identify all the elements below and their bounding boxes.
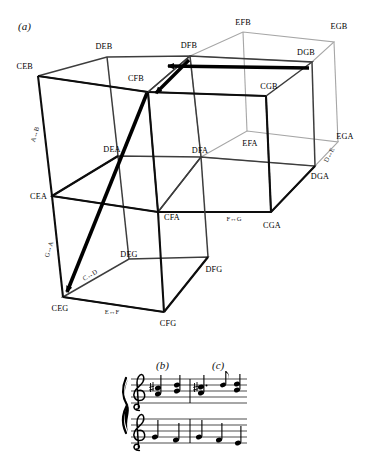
mid-cube-edge-dgb-dga (312, 62, 315, 166)
edge-label-e-f: E↔F (105, 308, 120, 315)
treble-clef-upper (134, 375, 145, 411)
cube-near (38, 56, 208, 312)
vertex-label-egb: EGB (331, 22, 348, 31)
near-cube-bold-cfb-cfa (148, 92, 158, 212)
near-cube-bold-left-vert-lower (52, 196, 63, 297)
vertex-label-efb: EFB (235, 18, 251, 27)
vertex-label-cfg: CFG (160, 319, 177, 328)
vertex-label-dgb: DGB (297, 48, 315, 57)
measure-b-lower-notes (151, 420, 179, 443)
edge-label-f-g: F↔G (226, 215, 241, 222)
vertex-label-ceb: CEB (16, 62, 33, 71)
vertex-label-cea: CEA (30, 192, 47, 201)
accidental-sharp-b1 (149, 382, 154, 392)
vertex-label-cgb: CGB (260, 82, 278, 91)
mid-cube-bold-bottom (158, 166, 315, 212)
mid-cube-bold-vert-cgb (266, 96, 271, 212)
measure-c-upper-notes (193, 371, 240, 396)
cube-middle (148, 56, 315, 212)
vertex-label-ega: EGA (336, 132, 353, 141)
edge-label-group: A↔B G↔A C↔D E↔F F↔G D↔E (29, 125, 335, 315)
edge-label-a-b: A↔B (29, 125, 40, 143)
vertex-label-dfg: DFG (206, 265, 223, 274)
lower-staff (131, 419, 247, 443)
measure-b-upper-notes (149, 375, 180, 397)
measure-c-lower-notes (195, 420, 241, 446)
vertex-label-dfa: DFA (192, 146, 208, 155)
mid-cube-mid-face (158, 157, 315, 212)
accidental-sharp-c1 (193, 382, 198, 392)
vertex-label-dga: DGA (311, 172, 329, 181)
figure-container: (a) (0, 0, 373, 473)
edge-label-c-d: C↔D (81, 268, 98, 282)
far-cube-edge-egb-ega (334, 42, 338, 142)
figure-svg: (a) (0, 0, 373, 473)
vertex-label-cfb: CFB (128, 74, 144, 83)
vertex-label-dfb: DFB (181, 41, 198, 50)
vertex-label-deb: DEB (96, 42, 113, 51)
panel-label-c: (c) (212, 359, 225, 372)
arrow-cfb-to-ceg (67, 93, 147, 292)
edge-label-g-a: G↔A (43, 240, 54, 258)
vertex-label-dea: DEA (103, 145, 120, 154)
mid-cube-bold-top-front (148, 92, 266, 96)
near-cube-bold-left-vert-upper (38, 76, 52, 196)
near-cube-mid-face (52, 156, 201, 212)
panel-label-b: (b) (156, 359, 169, 372)
vertex-label-cga: CGA (263, 221, 281, 230)
mid-cube-edge-dfb-dfa (190, 56, 201, 157)
vertex-label-ceg: CEG (52, 304, 69, 313)
edge-label-d-e: D↔E (322, 146, 335, 163)
treble-clef-lower (134, 415, 145, 451)
augmentation-dot-c1 (206, 385, 208, 387)
near-cube-edge-deb-dea (107, 57, 118, 156)
score-group (123, 371, 247, 451)
near-cube-bold-right-vert (158, 212, 164, 312)
arrow-dgb-to-dfb (168, 66, 309, 68)
far-cube-edge-efb-efa (243, 32, 247, 131)
vertex-label-cfa: CFA (164, 213, 180, 222)
cube-middle-bold (148, 92, 315, 212)
upper-staff (131, 379, 247, 403)
near-cube-edge-dfg-dfa (201, 157, 208, 257)
vertex-label-efa: EFA (242, 139, 257, 148)
near-cube-bold-bottom-right (164, 257, 208, 312)
cube-far-faint (190, 32, 338, 166)
vertex-label-deg: DEG (120, 250, 137, 259)
cube-near-bold (38, 76, 208, 312)
panel-label-a: (a) (18, 20, 31, 33)
